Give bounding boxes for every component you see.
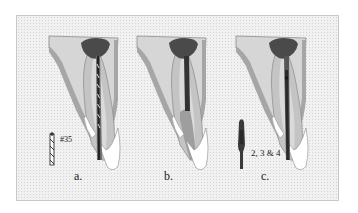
instrument-label-c: 2, 3 & 4 bbox=[251, 148, 281, 158]
panel-label-b: b. bbox=[164, 169, 173, 183]
panel-label-c: c. bbox=[261, 169, 269, 183]
panel-c: 2, 3 & 4 c. bbox=[236, 36, 308, 183]
drill-head-c bbox=[285, 77, 288, 80]
panel-b: b. bbox=[137, 36, 208, 183]
instrument-label-a: #35 bbox=[60, 135, 72, 144]
instrument-35-icon bbox=[50, 132, 54, 165]
panel-label-a: a. bbox=[74, 169, 82, 183]
drill-234-icon bbox=[238, 119, 245, 169]
dental-diagram: #35 a. b. 2, 3 & 4 bbox=[0, 0, 358, 213]
panel-a: #35 a. bbox=[49, 36, 120, 183]
filled-canal-b bbox=[184, 56, 190, 111]
